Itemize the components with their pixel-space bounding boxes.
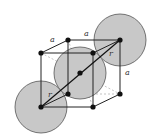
bcc-unit-cell-diagram: a a a r r	[0, 0, 159, 139]
label-edge-a-left: a	[50, 35, 55, 44]
label-edge-a-right: a	[125, 68, 130, 77]
label-edge-a-top: a	[84, 29, 89, 38]
